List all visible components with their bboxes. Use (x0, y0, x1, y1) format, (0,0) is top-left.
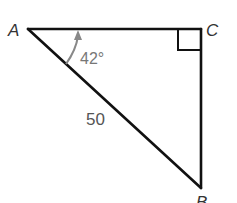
angle-arc-A (66, 36, 78, 64)
right-angle-marker (178, 29, 201, 50)
side-AB-hypotenuse (28, 29, 201, 188)
hypotenuse-length-label: 50 (86, 110, 105, 129)
triangle-diagram: A C B 42° 50 (0, 0, 237, 203)
vertex-label-C: C (206, 21, 219, 40)
angle-label-A: 42° (80, 50, 104, 67)
vertex-label-A: A (7, 21, 19, 40)
angle-arrowhead-icon (74, 30, 82, 40)
vertex-label-B: B (196, 193, 207, 203)
